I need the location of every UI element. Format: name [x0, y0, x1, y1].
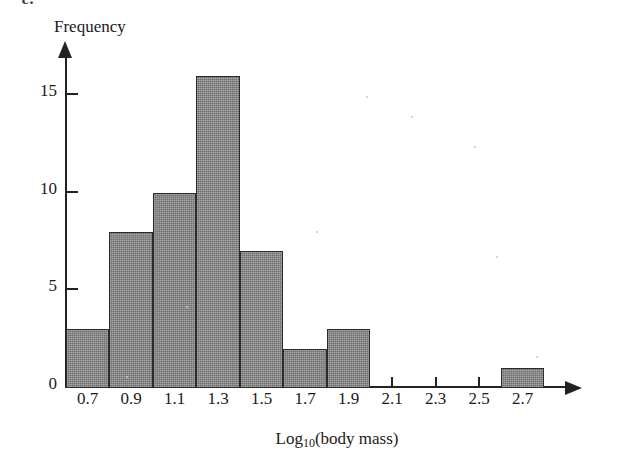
- x-tick-label-1.3: 1.3: [208, 390, 229, 407]
- scan-speck: [474, 146, 476, 148]
- x-tick-label-1.9: 1.9: [338, 390, 359, 407]
- histogram-bar: [153, 193, 196, 388]
- x-axis-title-subscript: 10: [303, 436, 315, 450]
- scan-speck: [366, 96, 368, 98]
- y-tick-label-10: 10: [40, 180, 57, 197]
- x-tick-label-2.7: 2.7: [512, 390, 533, 407]
- y-tick-label-0: 0: [49, 375, 58, 392]
- x-tick-label-1.7: 1.7: [295, 390, 316, 407]
- x-tick-label-0.7: 0.7: [77, 390, 98, 407]
- x-axis-title-rest: (body mass): [315, 429, 399, 448]
- x-tick-label-0.9: 0.9: [121, 390, 142, 407]
- scan-speck: [411, 116, 413, 118]
- plot-area: 051015 0.70.91.11.31.51.71.92.12.32.52.7: [66, 56, 566, 388]
- x-tick-label-1.1: 1.1: [164, 390, 185, 407]
- y-tick-label-15: 15: [40, 82, 57, 99]
- histogram-figure: c. Frequency 051015 0.70.91.11.31.51.71.…: [0, 0, 638, 467]
- scan-speck: [316, 231, 318, 233]
- x-tick-2.3: 2.3: [435, 377, 437, 388]
- y-tick-5: 5: [66, 288, 78, 290]
- x-tick-2.5: 2.5: [478, 377, 480, 388]
- x-axis-title-main: Log: [276, 429, 303, 448]
- x-tick-label-1.5: 1.5: [251, 390, 272, 407]
- y-axis-arrow-icon: [58, 41, 72, 58]
- histogram-bar: [66, 329, 109, 388]
- y-tick-15: 15: [66, 93, 78, 95]
- y-tick-10: 10: [66, 191, 78, 193]
- scan-speck: [186, 306, 188, 308]
- x-axis-title: Log10(body mass): [0, 429, 638, 451]
- x-tick-2.1: 2.1: [391, 377, 393, 388]
- panel-letter: c.: [22, 0, 35, 9]
- y-axis-title: Frequency: [54, 17, 126, 37]
- scan-speck: [496, 256, 498, 258]
- scan-speck: [536, 356, 538, 358]
- x-tick-label-2.1: 2.1: [381, 390, 402, 407]
- x-axis-arrow-icon: [565, 381, 582, 395]
- x-tick-label-2.5: 2.5: [468, 390, 489, 407]
- x-tick-label-2.3: 2.3: [425, 390, 446, 407]
- histogram-bar: [240, 251, 283, 388]
- scan-speck: [126, 376, 128, 378]
- histogram-bar: [283, 349, 326, 388]
- histogram-bar: [501, 368, 544, 388]
- histogram-bar: [109, 232, 152, 388]
- histogram-bar: [327, 329, 370, 388]
- histogram-bar: [196, 76, 239, 388]
- y-tick-label-5: 5: [49, 277, 58, 294]
